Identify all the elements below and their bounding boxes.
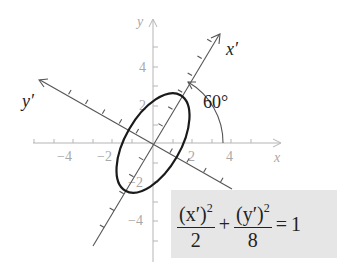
x-tick-label-neg4: −4 [57,149,72,164]
term1-exponent: 2 [207,201,213,215]
x-prime-label: x′ [225,39,239,59]
term2-denominator: 8 [248,228,258,252]
y-tick-label-neg2: −2 [128,175,143,190]
y-axis-label: y [135,14,144,29]
y-prime-label: y′ [20,91,35,111]
term1-numerator: (x′) [179,203,207,225]
y-prime-axis-arrow-icon [39,79,48,87]
y-tick-label-neg4: −4 [128,213,143,228]
x-axis-label: x [273,150,281,165]
term2-fraction: (y′)2 8 [234,196,272,252]
equation-rhs: 1 [291,213,301,236]
x-tick-label-neg2: −2 [97,149,112,164]
equation-box: (x′)2 2 + (y′)2 8 = 1 [171,190,337,258]
plus-sign: + [219,213,230,236]
term1-denominator: 2 [191,228,201,252]
rotation-angle-label: 60° [203,92,228,112]
term2-numerator: (y′) [236,203,264,225]
x-tick-label-4: 4 [226,149,233,164]
y-tick-label-4: 4 [139,60,146,75]
equals-sign: = [276,213,287,236]
x-tick-label-2: 2 [188,149,195,164]
term2-exponent: 2 [264,201,270,215]
ellipse-equation: (x′)2 2 + (y′)2 8 = 1 [177,196,301,252]
term1-fraction: (x′)2 2 [177,196,215,252]
